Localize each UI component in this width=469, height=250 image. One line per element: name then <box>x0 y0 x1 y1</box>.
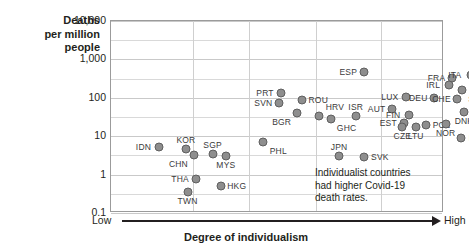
data-point-label: ITA <box>448 70 461 80</box>
data-point[interactable] <box>421 120 430 129</box>
data-point[interactable] <box>444 81 453 90</box>
gridline-horizontal <box>111 79 442 80</box>
plot-area: PRTROUSVNBGRHRVGHCIDNKORCHNSGPMYSPHLTHAH… <box>110 20 443 212</box>
x-axis-high-label: High <box>444 214 466 226</box>
data-point-label: SGP <box>203 140 222 150</box>
data-point[interactable] <box>208 150 217 159</box>
data-point-label: DNK <box>455 116 469 126</box>
data-point-label: ISR <box>348 102 363 112</box>
data-point-label: HKG <box>227 181 246 191</box>
data-point[interactable] <box>335 152 344 161</box>
data-point-label: TWN <box>178 196 198 206</box>
data-point-label: IDN <box>136 142 151 152</box>
gridline-horizontal <box>111 21 442 22</box>
data-point[interactable] <box>275 99 284 108</box>
data-point[interactable] <box>351 112 360 121</box>
data-point-label: ESP <box>339 67 357 77</box>
data-point[interactable] <box>276 89 285 98</box>
data-point-label: PRT <box>256 88 273 98</box>
data-point-label: DEU <box>409 93 428 103</box>
y-axis-tick-label: 1,000 <box>40 52 106 64</box>
data-point[interactable] <box>360 67 369 76</box>
data-point[interactable] <box>293 109 302 118</box>
data-point[interactable] <box>456 133 465 142</box>
gridline-vertical <box>249 21 250 211</box>
data-point[interactable] <box>155 143 164 152</box>
data-point-label: MYS <box>216 160 235 170</box>
data-point[interactable] <box>298 95 307 104</box>
chart-annotation: Individualist countries had higher Covid… <box>315 167 411 205</box>
y-axis-tick-label: 10 <box>40 129 106 141</box>
covid-individualism-scatter-chart: Deaths per million people 10,0001,000100… <box>0 0 469 250</box>
data-point-label: SVK <box>371 152 389 162</box>
x-axis-line <box>122 220 434 222</box>
y-axis-tick-label: 1 <box>40 168 106 180</box>
data-point-label: LUX <box>381 92 398 102</box>
data-point-label: HRV <box>326 102 344 112</box>
data-point-label: AUT <box>368 104 386 114</box>
data-point[interactable] <box>315 112 324 121</box>
data-point-label: BGR <box>272 117 291 127</box>
gridline-horizontal <box>111 136 442 137</box>
data-point[interactable] <box>458 85 467 94</box>
data-point[interactable] <box>191 175 200 184</box>
data-point-label: NOR <box>436 128 456 138</box>
gridline-horizontal <box>111 59 442 60</box>
data-point-label: EST <box>380 118 397 128</box>
data-point[interactable] <box>326 115 335 124</box>
gridline-horizontal <box>111 40 442 41</box>
x-axis-low-label: Low <box>92 214 111 226</box>
y-axis-tick-label: 100 <box>40 91 106 103</box>
data-point[interactable] <box>258 138 267 147</box>
data-point[interactable] <box>216 182 225 191</box>
data-point-label: GHC <box>337 123 357 133</box>
data-point[interactable] <box>360 153 369 162</box>
data-point-label: CHN <box>169 159 188 169</box>
data-point-label: PHL <box>270 146 287 156</box>
data-point-label: LTU <box>408 131 424 141</box>
x-axis-arrowhead-icon <box>432 216 441 226</box>
data-point-label: JPN <box>331 142 348 152</box>
y-axis-tick-label: 10,000 <box>40 14 106 26</box>
gridline-horizontal <box>111 213 442 214</box>
data-point-label: CHE <box>432 94 451 104</box>
data-point-label: SVN <box>254 98 272 108</box>
data-point[interactable] <box>190 150 199 159</box>
data-point-label: KOR <box>176 135 195 145</box>
x-axis-title: Degree of individualism <box>184 231 308 243</box>
data-point-label: IRL <box>426 80 440 90</box>
data-point[interactable] <box>453 94 462 103</box>
y-axis-tick-labels: 10,0001,0001001010.1 <box>36 20 106 212</box>
data-point-label: THA <box>171 174 189 184</box>
